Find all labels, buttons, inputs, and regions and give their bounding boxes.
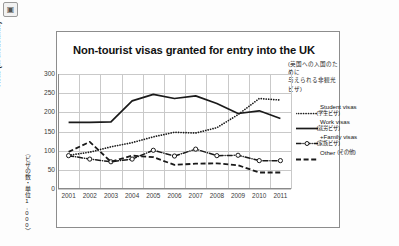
y-axis-label-japanese: 〈ビザの数・単位1,000〉: [19, 150, 30, 234]
thumbnail-icon: ▣: [3, 2, 18, 17]
series-line: [69, 94, 281, 122]
series-marker: [278, 159, 282, 163]
x-axis-tick-label: 2011: [267, 192, 293, 199]
subtitle-japanese-line1: (英国への入国のために: [288, 60, 340, 76]
series-line: [69, 99, 281, 156]
plot-area: [58, 74, 291, 189]
gridline-h: [58, 189, 291, 190]
series-marker: [215, 154, 219, 158]
gridline-v: [291, 74, 292, 189]
legend-item[interactable]: Other (その他): [296, 148, 340, 157]
series-marker: [151, 148, 155, 152]
legend-swatch-dashed-icon: [296, 149, 318, 156]
legend-item[interactable]: Work visas(就労ビザ): [296, 118, 340, 132]
y-axis-tick-label: 0: [33, 185, 55, 192]
legend-swatch-solid-icon: [296, 118, 318, 125]
page-title: Non-tourist visas granted for entry into…: [60, 44, 328, 56]
y-axis-label: Visas (in thousands): [0, 22, 1, 88]
chart-legend: Student visas(学生ビザ)Work visas(就労ビザ)+Fami…: [296, 103, 340, 158]
series-marker: [66, 154, 70, 158]
slide-canvas: ▣ Non-tourist visas granted for entry in…: [0, 0, 399, 246]
legend-label: Other: [320, 149, 335, 156]
series-lines: [58, 74, 291, 189]
series-marker: [236, 153, 240, 157]
subtitle-japanese-line2: 与えられる非観光ビザ): [288, 76, 340, 92]
y-axis-tick-label: 100: [33, 147, 55, 154]
y-axis-tick-label: 250: [33, 89, 55, 96]
legend-item[interactable]: Student visas(学生ビザ): [296, 103, 340, 117]
series-marker: [172, 154, 176, 158]
legend-label-japanese: (その他): [337, 148, 356, 156]
legend-swatch-dashdot-icon: [296, 133, 318, 140]
series-marker: [130, 157, 134, 161]
y-axis-tick-label: 50: [33, 166, 55, 173]
y-axis-tick-label: 200: [33, 108, 55, 115]
series-marker: [88, 157, 92, 161]
y-axis-tick-label: 150: [33, 128, 55, 135]
subtitle-japanese: (英国への入国のために 与えられる非観光ビザ): [288, 60, 340, 93]
y-axis-tick-label: 300: [33, 70, 55, 77]
legend-swatch-dotted-icon: [296, 103, 318, 110]
series-marker: [194, 147, 198, 151]
series-marker: [257, 159, 261, 163]
legend-item[interactable]: +Family visas(家族ビザ): [296, 133, 340, 147]
